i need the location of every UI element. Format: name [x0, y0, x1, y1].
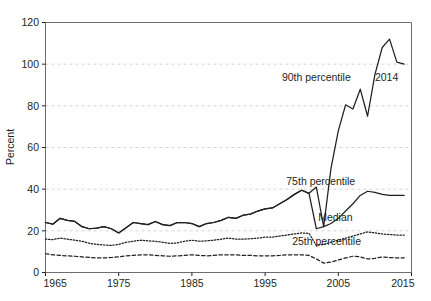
series-25th-percentile: [46, 254, 405, 263]
gridlines: [46, 64, 412, 231]
y-tick-label-100: 100: [21, 58, 39, 70]
percent-chart: 020406080100120 196519751985199520052015…: [0, 0, 431, 301]
chart-canvas: 020406080100120 196519751985199520052015…: [0, 0, 431, 301]
x-tick-labels: 196519751985199520052015: [44, 277, 415, 289]
y-tick-labels: 020406080100120: [21, 16, 39, 278]
x-tick-label-1975: 1975: [107, 277, 131, 289]
series-90th-percentile: [46, 39, 405, 233]
annotation-2014: 2014: [375, 71, 399, 83]
x-tick-label-1985: 1985: [180, 277, 204, 289]
y-tick-label-120: 120: [21, 16, 39, 28]
annotation-75th-percentile: 75th percentile: [286, 175, 355, 187]
y-tick-label-20: 20: [27, 225, 39, 237]
x-tick-label-1965: 1965: [44, 277, 68, 289]
y-tick-label-40: 40: [27, 183, 39, 195]
y-tick-label-60: 60: [27, 141, 39, 153]
y-tick-marks: [42, 23, 46, 273]
y-tick-label-80: 80: [27, 100, 39, 112]
x-tick-label-1995: 1995: [253, 277, 277, 289]
annotation-90th-percentile: 90th percentile: [282, 71, 351, 83]
chart-annotations: 90th percentile201475th percentileMedian…: [282, 71, 399, 248]
annotation-25th-percentile: 25th percentile: [292, 235, 361, 247]
x-tick-marks: [46, 273, 412, 277]
annotation-median: Median: [318, 211, 353, 223]
x-tick-label-2005: 2005: [327, 277, 351, 289]
x-tick-label-2015: 2015: [391, 277, 415, 289]
y-tick-label-0: 0: [33, 266, 39, 278]
y-axis-title: Percent: [4, 129, 16, 165]
